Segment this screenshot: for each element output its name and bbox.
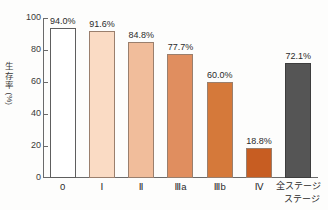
- y-axis-tick-label: 60: [19, 77, 41, 86]
- bar-value-label: 77.7%: [168, 42, 194, 52]
- y-axis-tick-label: 40: [19, 109, 41, 118]
- y-axis-unit-label: (%): [5, 91, 15, 106]
- x-axis-title: ステージ: [284, 194, 320, 205]
- bar[interactable]: [246, 148, 272, 178]
- x-axis-category-label: Ⅳ: [255, 181, 264, 192]
- bar-value-label: 60.0%: [207, 70, 233, 80]
- bar-slot: 77.7%: [161, 18, 200, 178]
- bar-value-label: 18.8%: [246, 136, 272, 146]
- bar-slot: 72.1%: [279, 18, 318, 178]
- bar-value-label: 94.0%: [50, 16, 76, 26]
- x-axis-category-label: 全ステージ: [276, 181, 321, 192]
- plot-area: 94.0%91.6%84.8%77.7%60.0%18.8%72.1%: [43, 18, 318, 178]
- bar-value-label: 72.1%: [286, 51, 312, 61]
- x-axis-category-label: Ⅰ: [101, 181, 104, 192]
- survival-rate-bar-chart: 生 存 率 (%) 100806040200 94.0%91.6%84.8%77…: [0, 0, 328, 210]
- bar-value-label: 84.8%: [128, 30, 154, 40]
- x-axis-category-label: Ⅲb: [214, 181, 226, 192]
- bar[interactable]: [50, 28, 76, 178]
- bar-slot: 18.8%: [239, 18, 278, 178]
- y-axis-tick-label: 0: [19, 173, 41, 182]
- bar[interactable]: [128, 42, 154, 178]
- y-axis-tick-label: 100: [19, 13, 41, 22]
- bar-slot: 60.0%: [200, 18, 239, 178]
- x-axis-category-label: Ⅲa: [175, 181, 187, 192]
- x-axis-category-label: Ⅱ: [139, 181, 144, 192]
- y-axis-tick-label: 20: [19, 141, 41, 150]
- x-axis-category-labels: 0ⅠⅡⅢaⅢbⅣ全ステージ: [43, 181, 318, 195]
- y-axis-tick-labels: 100806040200: [17, 0, 41, 210]
- bar[interactable]: [167, 54, 193, 178]
- y-axis-tick-label: 80: [19, 45, 41, 54]
- bar[interactable]: [207, 82, 233, 178]
- y-axis-title-char-3: 率: [2, 81, 17, 91]
- x-axis-category-label: 0: [60, 181, 65, 192]
- bar-series: 94.0%91.6%84.8%77.7%60.0%18.8%72.1%: [43, 18, 318, 178]
- y-axis-title: 生 存 率 (%): [2, 62, 17, 103]
- bar-value-label: 91.6%: [89, 19, 115, 29]
- bar-slot: 94.0%: [43, 18, 82, 178]
- bar-slot: 91.6%: [82, 18, 121, 178]
- bar[interactable]: [89, 31, 115, 178]
- bar-slot: 84.8%: [122, 18, 161, 178]
- bar[interactable]: [285, 63, 311, 178]
